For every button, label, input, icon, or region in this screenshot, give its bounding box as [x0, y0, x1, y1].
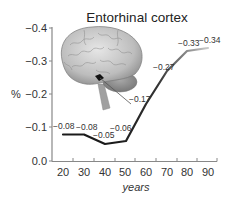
- chart: Entorhinal cortex: [0, 0, 229, 199]
- y-tick-label: −0.2: [25, 88, 47, 100]
- x-tick-label: 80: [181, 166, 193, 178]
- y-tick-label: 0.0: [32, 155, 47, 167]
- data-label: −0.34: [199, 35, 221, 45]
- x-tick-label: 70: [161, 166, 173, 178]
- data-label: −0.06: [110, 123, 132, 133]
- data-label: −0.33: [178, 38, 200, 48]
- x-tick-label: 40: [99, 166, 111, 178]
- data-label: −0.17: [129, 94, 151, 104]
- data-label: −0.27: [153, 62, 175, 72]
- y-tick-label: −0.1: [25, 121, 47, 133]
- y-tick-label: −0.4: [25, 22, 47, 34]
- x-tick-label: 60: [140, 166, 152, 178]
- x-tick-label: 30: [78, 166, 90, 178]
- data-label: −0.08: [53, 121, 75, 131]
- x-tick-label: 50: [119, 166, 131, 178]
- chart-title: Entorhinal cortex: [86, 10, 188, 25]
- y-axis-label: %: [11, 88, 21, 100]
- y-axis: −0.4 −0.3 −0.2 −0.1 0.0 %: [11, 22, 52, 167]
- x-axis: 20 30 40 50 60 70 80 90 years: [52, 158, 217, 193]
- x-tick-label: 20: [57, 166, 69, 178]
- x-tick-label: 90: [202, 166, 214, 178]
- y-tick-label: −0.3: [25, 55, 47, 67]
- x-axis-label: years: [122, 181, 150, 193]
